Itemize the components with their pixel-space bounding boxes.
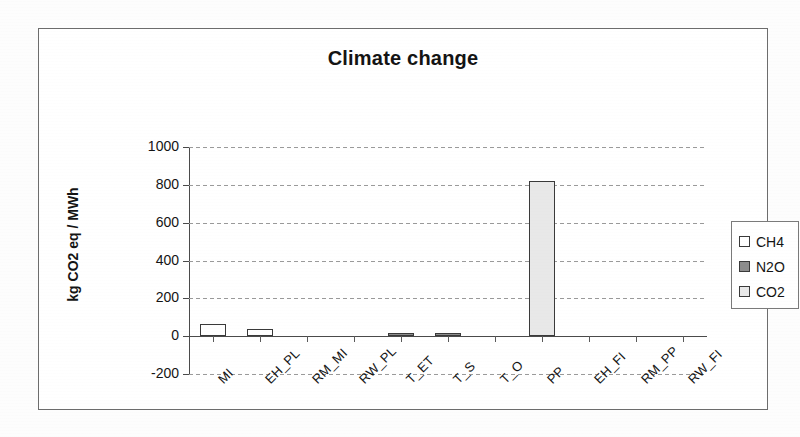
x-tick-mark: [589, 336, 590, 342]
gridline-600: [189, 223, 707, 224]
legend-item-CO2: CO2: [739, 279, 798, 304]
y-tick-label: 1000: [131, 138, 179, 154]
y-axis-title: kg CO2 eq / MWh: [65, 137, 85, 352]
scanned-page: Climate change kg CO2 eq / MWh CH4N2OCO2…: [0, 0, 800, 437]
gridline-800: [189, 185, 707, 186]
gridline-400: [189, 261, 707, 262]
gridline-1000: [189, 147, 707, 148]
y-tick-mark-200: [183, 298, 189, 299]
legend-item-CH4: CH4: [739, 229, 798, 254]
x-tick-mark: [354, 336, 355, 342]
y-tick-mark-600: [183, 223, 189, 224]
x-tick-mark: [448, 336, 449, 342]
y-tick-label: 600: [131, 214, 179, 230]
legend-swatch-icon: [739, 286, 750, 297]
y-tick-mark-400: [183, 261, 189, 262]
y-tick-label: -200: [131, 365, 179, 381]
plot-area: [189, 147, 707, 374]
legend-label: CH4: [756, 234, 784, 250]
chart-frame: Climate change kg CO2 eq / MWh CH4N2OCO2…: [38, 28, 768, 410]
chart-legend: CH4N2OCO2: [731, 221, 799, 309]
y-tick-mark-800: [183, 185, 189, 186]
x-tick-mark: [401, 336, 402, 342]
bar-PP: [529, 181, 555, 336]
y-tick-label: 800: [131, 176, 179, 192]
legend-item-N2O: N2O: [739, 254, 798, 279]
x-tick-mark: [542, 336, 543, 342]
y-tick-mark-0: [183, 336, 189, 337]
x-tick-mark: [495, 336, 496, 342]
x-tick-mark: [307, 336, 308, 342]
y-tick-mark-1000: [183, 147, 189, 148]
x-tick-mark: [683, 336, 684, 342]
x-tick-mark: [260, 336, 261, 342]
x-tick-mark: [213, 336, 214, 342]
chart-title: Climate change: [39, 47, 767, 70]
bar-MI: [200, 324, 226, 336]
y-tick-label: 200: [131, 289, 179, 305]
y-tick-label: 400: [131, 252, 179, 268]
y-tick-label: 0: [131, 327, 179, 343]
bar-T_ET: [388, 333, 414, 336]
legend-swatch-icon: [739, 236, 750, 247]
bar-T_S: [435, 333, 461, 336]
legend-label: N2O: [756, 259, 785, 275]
y-tick-mark--200: [183, 374, 189, 375]
gridline-200: [189, 298, 707, 299]
x-tick-mark: [636, 336, 637, 342]
legend-swatch-icon: [739, 261, 750, 272]
legend-label: CO2: [756, 284, 785, 300]
bar-EH_PL: [247, 329, 273, 337]
